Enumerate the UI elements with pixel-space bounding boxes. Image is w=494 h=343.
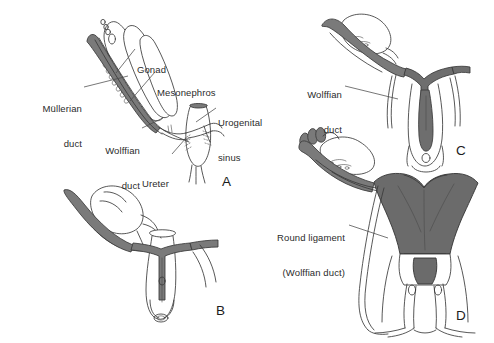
- label-wolffian-duct-a-line1: Wolffian: [84, 145, 140, 157]
- label-wolffian-duct-a: Wolffian duct: [84, 122, 140, 214]
- label-wolffian-duct-a-line2: duct: [84, 180, 140, 192]
- label-mullerian-duct-line1: Müllerian: [14, 103, 82, 115]
- label-mullerian-duct-line2: duct: [14, 138, 82, 150]
- label-round-ligament: Round ligament (Wolffian duct): [253, 209, 345, 301]
- panel-letter-c: C: [456, 143, 466, 158]
- label-urogenital-sinus: Urogenital sinus: [218, 94, 282, 186]
- label-ureter-line1: Ureter: [142, 178, 188, 190]
- label-mullerian-duct: Müllerian duct: [14, 80, 82, 172]
- leader-wolffian-duct-c: [345, 86, 398, 99]
- label-round-ligament-line2: (Wolffian duct): [253, 267, 345, 279]
- leader-ureter: [172, 138, 186, 154]
- label-wolffian-duct-c-line1: Wolffian: [288, 89, 342, 101]
- label-urogenital-sinus-line2: sinus: [218, 152, 282, 164]
- label-wolffian-duct-c-line2: duct: [288, 124, 342, 136]
- panel-letter-d: D: [456, 308, 466, 323]
- label-wolffian-duct-c: Wolffian duct: [288, 66, 342, 158]
- panel-letter-a: A: [222, 174, 231, 189]
- panel-letter-b: B: [216, 303, 225, 318]
- label-round-ligament-line1: Round ligament: [253, 232, 345, 244]
- anatomical-figure: .ol { fill:none; stroke:#3a3a3a; stroke-…: [0, 0, 494, 343]
- label-ureter: Ureter: [142, 155, 188, 213]
- label-urogenital-sinus-line1: Urogenital: [218, 117, 282, 129]
